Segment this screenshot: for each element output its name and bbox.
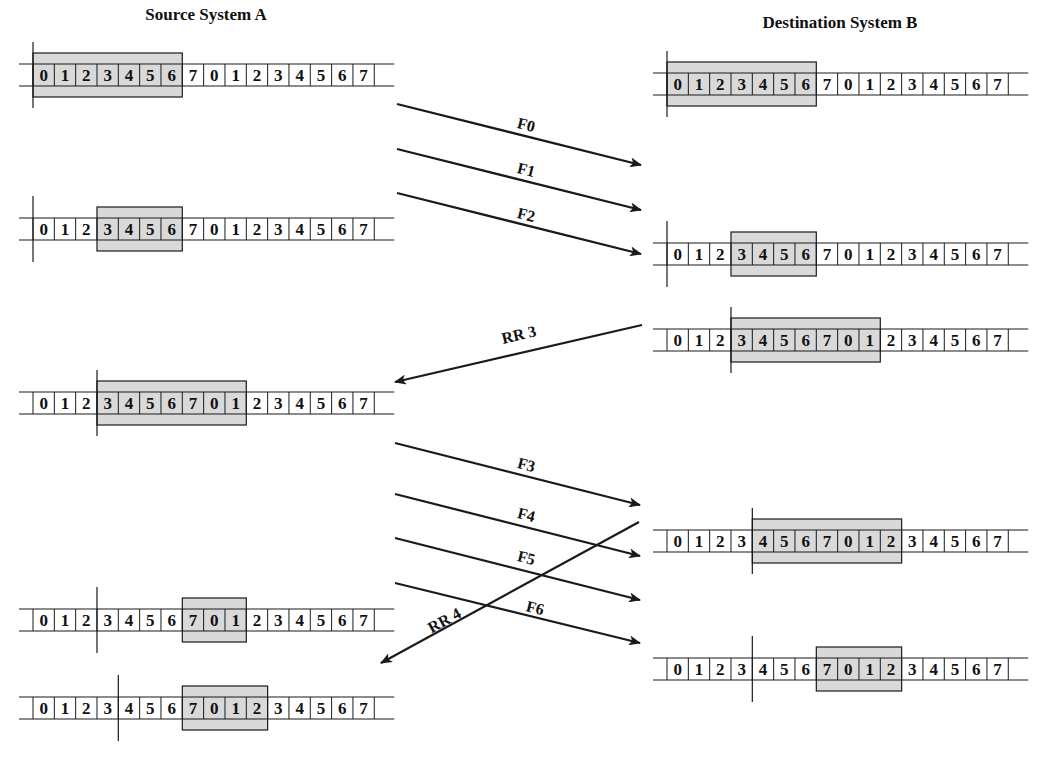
sequence-number-cell: 5 (317, 699, 326, 718)
arrow-line (397, 149, 641, 210)
frame-arrow-f2: F2 (397, 193, 641, 254)
source-window-row: 0123456701234567 (19, 675, 394, 741)
sequence-number-cell: 5 (951, 532, 960, 551)
sequence-number-cell: 2 (887, 331, 896, 350)
sequence-number-cell: 7 (189, 66, 198, 85)
sequence-number-cell: 4 (295, 699, 304, 718)
sequence-number-cell: 7 (359, 220, 368, 239)
sequence-number-cell: 5 (317, 220, 326, 239)
sequence-number-cell: 2 (887, 245, 896, 264)
sequence-number-cell: 3 (103, 611, 112, 630)
sequence-number-cell: 3 (737, 532, 746, 551)
sequence-number-cell: 6 (801, 532, 810, 551)
sequence-number-cell: 2 (887, 532, 896, 551)
sequence-number-cell: 5 (146, 394, 155, 413)
sequence-number-cell: 4 (295, 394, 304, 413)
frame-label: F2 (516, 204, 537, 225)
sequence-number-cell: 5 (146, 699, 155, 718)
sequence-number-cell: 2 (82, 220, 91, 239)
frame-label: F5 (516, 547, 537, 568)
sequence-number-cell: 6 (972, 331, 981, 350)
frame-label: F3 (516, 454, 537, 475)
frame-arrow-f1: F1 (397, 149, 641, 210)
sequence-number-cell: 0 (39, 611, 48, 630)
sequence-number-cell: 2 (716, 532, 725, 551)
sequence-number-cell: 3 (908, 331, 917, 350)
sequence-number-cell: 1 (695, 331, 704, 350)
destination-window-row: 0123456701234567 (653, 51, 1028, 117)
sequence-number-cell: 2 (82, 611, 91, 630)
sequence-number-cell: 4 (125, 66, 134, 85)
frame-label: F4 (516, 504, 537, 525)
frame-exchange-arrows: F0F1F2RR 3F3F4F5F6RR 4 (381, 104, 642, 663)
sequence-number-cell: 6 (801, 331, 810, 350)
sequence-number-cell: 0 (844, 532, 853, 551)
sequence-number-cell: 4 (929, 331, 938, 350)
sequence-number-cell: 5 (780, 245, 789, 264)
destination-window-row: 0123456701234567 (653, 221, 1028, 287)
sequence-number-cell: 3 (737, 331, 746, 350)
sequence-number-cell: 7 (823, 75, 832, 94)
sequence-number-cell: 4 (759, 245, 768, 264)
sequence-number-cell: 3 (908, 75, 917, 94)
sequence-number-cell: 0 (210, 611, 219, 630)
sequence-number-cell: 6 (972, 660, 981, 679)
sequence-number-cell: 0 (844, 245, 853, 264)
sequence-number-cell: 7 (189, 394, 198, 413)
sequence-number-cell: 2 (253, 66, 262, 85)
sequence-number-cell: 0 (844, 660, 853, 679)
sequence-number-cell: 7 (993, 532, 1002, 551)
sequence-number-cell: 4 (929, 532, 938, 551)
sequence-number-cell: 7 (993, 331, 1002, 350)
sequence-number-cell: 7 (823, 660, 832, 679)
sequence-number-cell: 4 (125, 394, 134, 413)
sequence-number-cell: 4 (929, 75, 938, 94)
ack-arrow-rr3: RR 3 (395, 322, 642, 382)
source-window-row: 0123456701234567 (19, 587, 394, 653)
sequence-number-cell: 0 (673, 532, 682, 551)
sequence-number-cell: 0 (210, 66, 219, 85)
sequence-number-cell: 6 (972, 75, 981, 94)
sequence-number-cell: 7 (993, 660, 1002, 679)
sequence-number-cell: 4 (759, 532, 768, 551)
sequence-number-cell: 3 (908, 532, 917, 551)
ack-label: RR 4 (425, 604, 464, 636)
arrow-line (397, 193, 641, 254)
sequence-number-cell: 7 (359, 611, 368, 630)
sequence-number-cell: 5 (317, 394, 326, 413)
sequence-number-cell: 3 (103, 66, 112, 85)
sequence-number-cell: 0 (844, 75, 853, 94)
destination-window-row: 0123456701234567 (653, 508, 1028, 574)
ack-label: RR 3 (500, 322, 538, 346)
sequence-number-cell: 0 (39, 220, 48, 239)
sequence-number-cell: 3 (103, 699, 112, 718)
frame-label: F0 (516, 114, 537, 135)
sequence-number-cell: 5 (951, 331, 960, 350)
sequence-number-cell: 7 (993, 75, 1002, 94)
sequence-number-cell: 1 (865, 245, 874, 264)
sequence-number-cell: 5 (317, 66, 326, 85)
sequence-number-cell: 2 (716, 75, 725, 94)
sequence-number-cell: 1 (865, 660, 874, 679)
arrow-line (397, 104, 641, 165)
sequence-number-cell: 2 (82, 699, 91, 718)
sequence-number-cell: 3 (737, 660, 746, 679)
sequence-number-cell: 5 (780, 75, 789, 94)
sequence-number-cell: 7 (359, 394, 368, 413)
frame-label: F1 (516, 159, 537, 180)
sequence-number-cell: 4 (295, 220, 304, 239)
sequence-number-cell: 0 (673, 331, 682, 350)
sequence-number-cell: 6 (167, 66, 176, 85)
sequence-number-cell: 2 (716, 331, 725, 350)
sequence-number-cell: 2 (253, 394, 262, 413)
sequence-number-cell: 1 (231, 220, 240, 239)
sequence-number-cell: 0 (673, 75, 682, 94)
sequence-number-cell: 5 (951, 75, 960, 94)
destination-system-title: Destination System B (763, 13, 918, 32)
sequence-number-cell: 1 (231, 611, 240, 630)
sequence-number-cell: 1 (865, 532, 874, 551)
sequence-number-cell: 5 (317, 611, 326, 630)
sequence-number-cell: 6 (167, 220, 176, 239)
sequence-number-cell: 3 (103, 394, 112, 413)
sequence-number-cell: 6 (167, 611, 176, 630)
